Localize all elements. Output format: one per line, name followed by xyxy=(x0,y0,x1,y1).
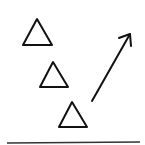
baseline xyxy=(7,142,140,143)
diagram-canvas xyxy=(0,0,145,145)
arrow-shaft xyxy=(92,34,130,101)
triangle-icon-top xyxy=(23,19,52,45)
triangle-icon-bottom xyxy=(59,102,87,127)
triangle-icon-middle xyxy=(40,62,68,87)
